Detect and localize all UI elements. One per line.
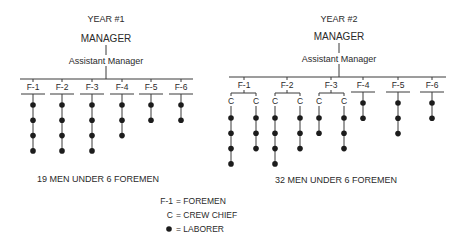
year2-laborer-dot xyxy=(395,100,401,106)
year2-laborer-dot xyxy=(360,100,366,106)
year1-laborer-dot xyxy=(178,118,184,124)
year1-laborer-dot xyxy=(30,148,36,154)
year2-laborer-dot xyxy=(272,146,278,152)
legend-laborer-dot-icon xyxy=(166,226,172,232)
year1-laborer-dot xyxy=(148,118,154,124)
year2-laborer-dot xyxy=(316,131,322,137)
year1-laborer-dot xyxy=(89,148,95,154)
org-chart-diagram: YEAR #1 MANAGER Assistant Manager F-1F-2… xyxy=(0,0,454,251)
year1-laborer-dot xyxy=(89,102,95,108)
year2-foreman-label: F-4 xyxy=(357,80,370,90)
year2-laborer-dot xyxy=(272,161,278,167)
year2-laborer-dot xyxy=(341,146,347,152)
year1-title: YEAR #1 xyxy=(87,14,124,24)
year2-laborer-dot xyxy=(341,131,347,137)
year1-caption: 19 MEN UNDER 6 FOREMEN xyxy=(37,174,159,184)
year1-laborer-dot xyxy=(59,118,65,124)
year2-crew-chief: C xyxy=(341,96,347,106)
year1-foreman-label: F-2 xyxy=(56,82,69,92)
year2-foreman-label: F-5 xyxy=(392,80,405,90)
year1-laborer-dot xyxy=(178,102,184,108)
year2-laborer-dot xyxy=(395,131,401,137)
year2-manager: MANAGER xyxy=(314,31,365,42)
year2-foreman-label: F-2 xyxy=(281,80,294,90)
year2-laborer-dot xyxy=(395,116,401,122)
year1-foreman-label: F-6 xyxy=(175,82,188,92)
year2-laborer-dot xyxy=(297,131,303,137)
year2-laborer-dot xyxy=(297,115,303,121)
year2-crew-chief: C xyxy=(272,96,278,106)
year2-laborer-dot xyxy=(316,115,322,121)
year2-laborer-dot xyxy=(360,116,366,122)
year1-manager: MANAGER xyxy=(81,33,132,44)
year1-laborer-dot xyxy=(30,133,36,139)
year1-laborer-dot xyxy=(89,133,95,139)
year2-laborer-dot xyxy=(228,131,234,137)
year1-laborer-dot xyxy=(148,102,154,108)
year2-crew-chief: C xyxy=(297,96,303,106)
year2-laborer-dot xyxy=(253,146,259,152)
year2-laborer-dot xyxy=(429,100,435,106)
year2-laborer-dot xyxy=(228,161,234,167)
year1-foreman-label: F-4 xyxy=(116,82,129,92)
year2-laborer-dot xyxy=(253,131,259,137)
year1-laborer-dot xyxy=(89,118,95,124)
legend-foreman-symbol: F-1 xyxy=(160,196,173,206)
year1-laborer-dot xyxy=(59,102,65,108)
year1-laborer-dot xyxy=(30,102,36,108)
legend-foreman-text: = FOREMEN xyxy=(176,196,226,206)
year2-laborer-dot xyxy=(228,115,234,121)
year2-laborer-dot xyxy=(272,115,278,121)
year1-laborer-dot xyxy=(30,118,36,124)
legend-laborer-text: = LABORER xyxy=(176,224,224,234)
year2-crew-chief: C xyxy=(228,96,234,106)
year1-laborer-dot xyxy=(59,148,65,154)
year1-laborer-dot xyxy=(119,102,125,108)
year1-chart: YEAR #1 MANAGER Assistant Manager F-1F-2… xyxy=(20,14,193,184)
year1-assistant-manager: Assistant Manager xyxy=(69,56,144,66)
year2-foreman-label: F-1 xyxy=(238,80,251,90)
year2-foreman-label: F-6 xyxy=(426,80,439,90)
year2-foreman-label: F-3 xyxy=(325,80,338,90)
legend-crew-chief-symbol: C xyxy=(167,210,173,220)
year2-laborer-dot xyxy=(272,131,278,137)
legend: F-1 = FOREMEN C = CREW CHIEF = LABORER xyxy=(160,196,237,234)
legend-crew-chief-text: = CREW CHIEF xyxy=(176,210,237,220)
year2-title: YEAR #2 xyxy=(320,14,357,24)
year2-laborer-dot xyxy=(429,116,435,122)
year2-laborer-dot xyxy=(297,146,303,152)
year1-foreman-label: F-3 xyxy=(86,82,99,92)
year2-crew-chief: C xyxy=(316,96,322,106)
year2-assistant-manager: Assistant Manager xyxy=(302,54,377,64)
year1-foreman-label: F-1 xyxy=(27,82,40,92)
year1-laborer-dot xyxy=(59,133,65,139)
year1-foreman-label: F-5 xyxy=(145,82,158,92)
year2-crew-chief: C xyxy=(253,96,259,106)
year2-laborer-dot xyxy=(341,115,347,121)
year2-laborer-dot xyxy=(253,115,259,121)
year1-laborer-dot xyxy=(119,133,125,139)
year2-caption: 32 MEN UNDER 6 FOREMEN xyxy=(275,175,397,185)
year2-laborer-dot xyxy=(228,146,234,152)
year1-laborer-dot xyxy=(119,118,125,124)
year2-chart: YEAR #2 MANAGER Assistant Manager F-1CCF… xyxy=(228,14,446,185)
